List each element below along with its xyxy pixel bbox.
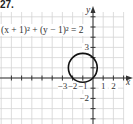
equation-label: (x + 1)² + (y − 1)² = 2 [1,25,84,36]
tick-labels: −3−2−1123−2 [58,42,118,103]
x-tick-label: 1 [101,81,106,91]
x-tick-label: −3 [58,81,68,91]
y-tick-label: 3 [85,42,90,52]
x-tick-label: −2 [68,81,78,91]
y-tick-label: −2 [79,93,89,103]
x-tick-label: 2 [111,81,116,91]
problem-number: 27. [0,0,14,10]
x-axis-label: x [125,77,131,87]
y-axis-label: y [85,5,91,15]
circle-graph: −3−2−1123−2 (x + 1)² + (y − 1)² = 2 27. … [0,0,133,124]
y-axis-arrow [91,6,96,13]
